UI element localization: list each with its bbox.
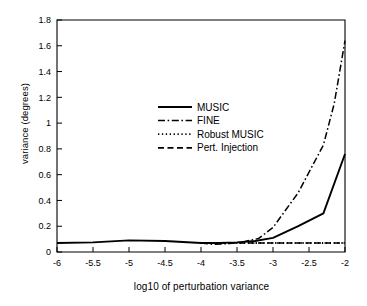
x-tick-label: -2.5 [301, 258, 317, 268]
legend-label-pert-injection: Pert. Injection [197, 142, 258, 153]
x-tick-label: -2 [341, 258, 349, 268]
y-tick-label: 1.4 [38, 67, 51, 77]
y-tick-label: 0.4 [38, 196, 51, 206]
x-tick-label: -6 [53, 258, 61, 268]
y-tick-label: 1.6 [38, 41, 51, 51]
x-tick-label: -3 [269, 258, 277, 268]
legend-label-fine: FINE [197, 115, 220, 126]
x-tick-labels: -6-5.5-5-4.5-4-3.5-3-2.5-2 [53, 258, 349, 268]
y-tick-label: 1 [46, 118, 51, 128]
plot-canvas: 00.20.40.60.811.21.41.61.8 -6-5.5-5-4.5-… [0, 0, 367, 306]
y-tick-label: 0 [46, 247, 51, 257]
x-tick-label: -4.5 [157, 258, 173, 268]
chart-legend: MUSICFINERobust MUSICPert. Injection [158, 102, 264, 154]
y-tick-label: 0.2 [38, 221, 51, 231]
x-tick-label: -4 [197, 258, 205, 268]
series-line-music [57, 154, 345, 243]
y-tick-label: 0.6 [38, 170, 51, 180]
x-tick-label: -5 [125, 258, 133, 268]
chart-figure: variance (degrees) log10 of perturbation… [0, 0, 367, 306]
y-tick-label: 1.2 [38, 93, 51, 103]
legend-label-robust-music: Robust MUSIC [197, 129, 264, 140]
y-tick-labels: 00.20.40.60.811.21.41.61.8 [38, 15, 51, 257]
y-tick-label: 0.8 [38, 144, 51, 154]
x-tick-label: -5.5 [85, 258, 101, 268]
legend-label-music: MUSIC [197, 102, 229, 113]
x-tick-label: -3.5 [229, 258, 245, 268]
y-tick-label: 1.8 [38, 15, 51, 25]
